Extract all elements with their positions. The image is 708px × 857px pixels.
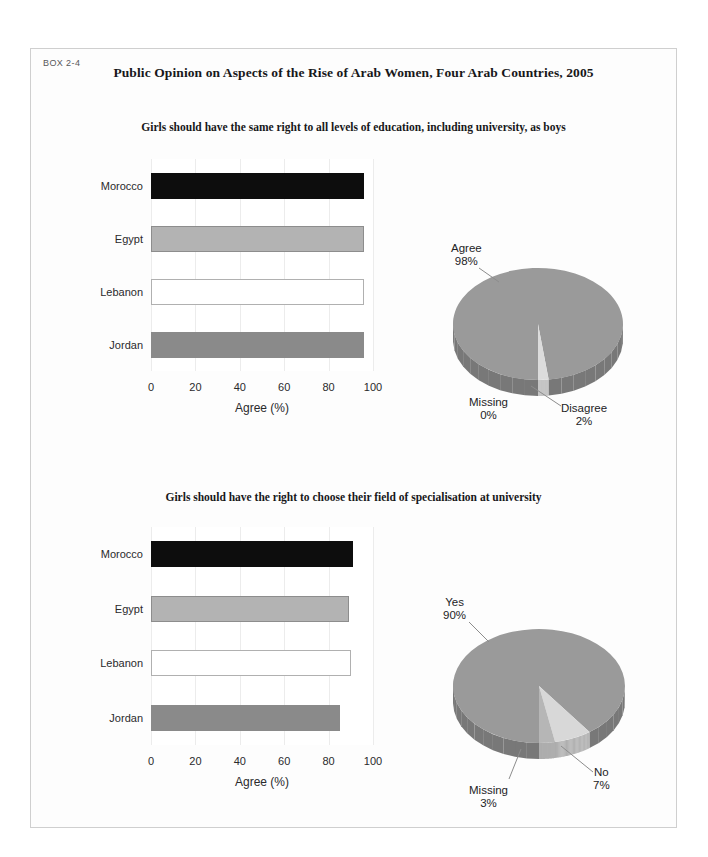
pie-slice-side-no [573, 738, 574, 754]
bar-row-lebanon: Lebanon [151, 279, 373, 305]
pie-graphic [421, 234, 671, 464]
pie-slice-side-no [581, 736, 582, 752]
pie-label-value: 7% [593, 779, 610, 792]
pie-label-disagree: Disagree2% [561, 402, 607, 428]
pie-chart-specialisation: Yes90%No7%Missing3% [421, 594, 671, 824]
pie-slice-side-no [586, 734, 587, 750]
pie-slice-side-agree [561, 375, 573, 394]
pie-slice-side-no [560, 741, 561, 757]
bar-morocco [151, 541, 353, 567]
bar-row-egypt: Egypt [151, 596, 373, 622]
bar-row-jordan: Jordan [151, 705, 373, 731]
x-axis-tick-100: 100 [364, 381, 382, 393]
pie-slice-side-agree [512, 377, 525, 395]
pie-slice-side-no [584, 734, 585, 750]
x-axis-tick-20: 20 [189, 381, 201, 393]
pie-label-name: Missing [469, 784, 508, 796]
bar-category-label-morocco: Morocco [101, 180, 143, 192]
pie-slice-side-no [579, 736, 580, 752]
pie-slice-side-no [556, 742, 557, 758]
bar-egypt [151, 596, 349, 622]
pie-label-no: No7% [593, 766, 610, 792]
panel-1-subtitle: Girls should have the same right to all … [31, 121, 676, 133]
pie-label-name: Agree [451, 242, 482, 254]
pie-slice-side-no [555, 742, 556, 758]
x-axis-tick-0: 0 [148, 381, 154, 393]
pie-slice-side-no [558, 741, 559, 757]
bar-morocco [151, 173, 364, 199]
pie-slice-side-no [572, 738, 573, 754]
pie-slice-side-no [559, 741, 560, 757]
pie-slice-side-agree [525, 379, 538, 396]
pie-graphic [421, 594, 671, 824]
pie-slice-side-no [577, 737, 578, 753]
pie-label-missing: Missing3% [469, 784, 508, 810]
pie-slice-side-no [571, 739, 572, 755]
bar-category-label-jordan: Jordan [109, 712, 143, 724]
bar-category-label-morocco: Morocco [101, 548, 143, 560]
x-axis-tick-80: 80 [322, 381, 334, 393]
x-axis-title: Agree (%) [151, 401, 373, 415]
pie-slice-side-no [575, 738, 576, 754]
bar-category-label-jordan: Jordan [109, 339, 143, 351]
pie-label-value: 90% [443, 609, 466, 622]
bar-row-jordan: Jordan [151, 332, 373, 358]
x-axis-tick-0: 0 [148, 755, 154, 767]
bar-jordan [151, 705, 340, 731]
pie-slice-side-no [574, 738, 575, 754]
pie-label-name: No [594, 766, 609, 778]
x-axis-title: Agree (%) [151, 775, 373, 789]
bar-lebanon [151, 279, 364, 305]
pie-slice-side-no [577, 737, 578, 753]
pie-slice-side-no [585, 734, 586, 750]
pie-label-agree: Agree98% [451, 242, 482, 268]
bar-row-lebanon: Lebanon [151, 650, 373, 676]
x-axis-ticks: 020406080100 [151, 381, 373, 399]
gridline [373, 159, 374, 371]
pie-slice-side-no [566, 740, 567, 756]
bar-category-label-lebanon: Lebanon [100, 286, 143, 298]
pie-slice-side-no [561, 741, 562, 757]
pie-slice-side-no [571, 739, 572, 755]
bar-category-label-lebanon: Lebanon [100, 657, 143, 669]
pie-slice-side-yes [504, 738, 515, 757]
bar-category-label-egypt: Egypt [115, 603, 143, 615]
box-frame: BOX 2-4 Public Opinion on Aspects of the… [30, 48, 677, 828]
gridline [373, 527, 374, 745]
pie-chart-education: Agree98%Disagree2%Missing0% [421, 234, 671, 449]
pie-label-missing: Missing0% [469, 396, 508, 422]
bar-egypt [151, 226, 364, 252]
pie-leader-line [469, 622, 489, 642]
pie-slice-side-agree [549, 378, 562, 396]
pie-label-name: Missing [469, 396, 508, 408]
x-axis-ticks: 020406080100 [151, 755, 373, 773]
pie-slice-side-yes [527, 742, 539, 759]
pie-slice-side-no [562, 741, 563, 757]
pie-slice-side-no [578, 736, 579, 752]
x-axis-tick-40: 40 [234, 755, 246, 767]
bar-chart-education: MoroccoEgyptLebanonJordan020406080100Agr… [71, 159, 391, 424]
plot-area: MoroccoEgyptLebanonJordan [151, 527, 373, 745]
pie-label-value: 3% [469, 797, 508, 810]
pie-label-value: 98% [451, 255, 482, 268]
pie-slice-side-no [565, 740, 566, 756]
bar-jordan [151, 332, 364, 358]
pie-slice-side-no [562, 741, 563, 757]
pie-slice-side-agree [500, 374, 512, 393]
pie-label-name: Disagree [561, 402, 607, 414]
x-axis-tick-60: 60 [278, 381, 290, 393]
pie-label-name: Yes [445, 596, 464, 608]
x-axis-tick-20: 20 [189, 755, 201, 767]
pie-slice-side-no [580, 736, 581, 752]
pie-slice-side-no [568, 739, 569, 755]
x-axis-tick-40: 40 [234, 381, 246, 393]
pie-label-yes: Yes90% [443, 596, 466, 622]
pie-label-value: 0% [469, 409, 508, 422]
pie-slice-side-no [586, 733, 587, 749]
bar-chart-specialisation: MoroccoEgyptLebanonJordan020406080100Agr… [71, 527, 391, 799]
plot-area: MoroccoEgyptLebanonJordan [151, 159, 373, 371]
pie-slice-side-no [557, 742, 558, 758]
bar-category-label-egypt: Egypt [115, 233, 143, 245]
page-title: Public Opinion on Aspects of the Rise of… [31, 65, 676, 81]
x-axis-tick-80: 80 [322, 755, 334, 767]
